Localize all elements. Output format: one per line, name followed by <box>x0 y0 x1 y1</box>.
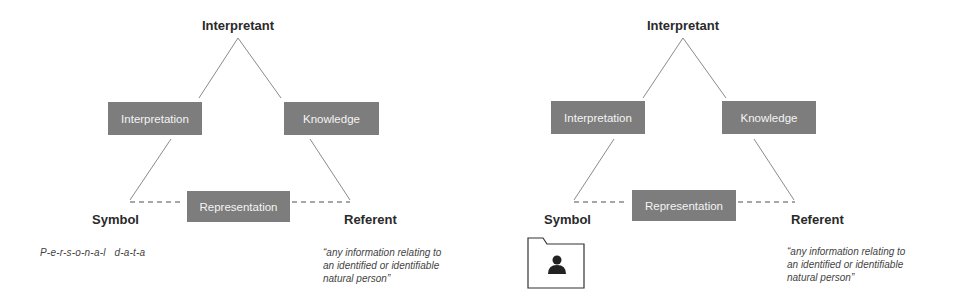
referent-label: Referent <box>344 212 397 227</box>
referent-definition: “any information relating to an identifi… <box>787 245 905 284</box>
definition-line: “any information relating to <box>323 246 441 259</box>
referent-definition: “any information relating to an identifi… <box>323 246 441 285</box>
knowledge-box: Knowledge <box>284 102 379 135</box>
person-folder-icon <box>527 236 587 290</box>
representation-box: Representation <box>632 190 736 221</box>
definition-line: an identified or identifiable <box>323 259 441 272</box>
symbol-label: Symbol <box>92 212 139 227</box>
interpretation-box: Interpretation <box>551 101 645 134</box>
apex-to-knowledge-line <box>683 38 726 98</box>
symbol-example-text: P-e-r-s-o-n-a-l d-a-t-a <box>40 246 145 259</box>
referent-label: Referent <box>791 212 844 227</box>
interpretation-to-symbol-line <box>574 139 614 200</box>
definition-line: an identified or identifiable <box>787 258 905 271</box>
knowledge-box: Knowledge <box>722 101 816 134</box>
interpretation-box: Interpretation <box>108 102 202 135</box>
symbol-label: Symbol <box>544 212 591 227</box>
interpretation-to-symbol-line <box>130 139 171 200</box>
interpretant-label: Interpretant <box>202 18 274 33</box>
representation-box: Representation <box>187 191 290 222</box>
knowledge-to-referent-line <box>754 139 794 200</box>
definition-line: natural person” <box>323 272 441 285</box>
apex-to-interpretation-line <box>643 38 683 98</box>
apex-to-knowledge-line <box>238 38 281 98</box>
apex-to-interpretation-line <box>199 38 238 98</box>
interpretant-label: Interpretant <box>647 18 719 33</box>
definition-line: natural person” <box>787 271 905 284</box>
knowledge-to-referent-line <box>310 139 350 200</box>
definition-line: “any information relating to <box>787 245 905 258</box>
